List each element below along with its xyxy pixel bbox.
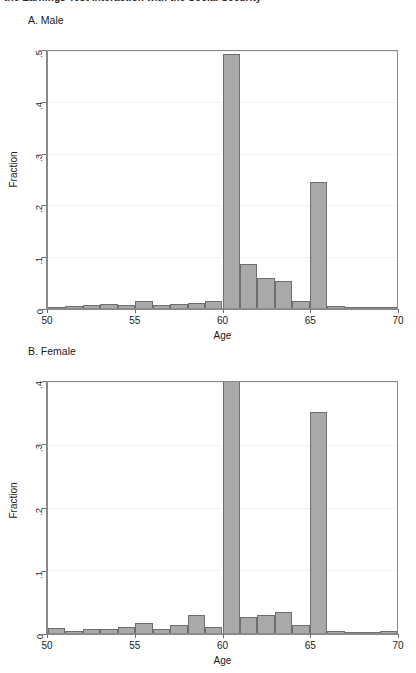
x-tick-label: 60 — [217, 315, 228, 326]
histogram-bar — [118, 305, 135, 308]
histogram-bar — [240, 617, 257, 633]
histogram-bar — [327, 631, 344, 634]
histogram-bar — [257, 615, 274, 633]
histogram-bar — [380, 307, 397, 308]
histogram-bar — [100, 629, 117, 633]
x-tick-mark — [135, 309, 136, 313]
histogram-bar — [345, 307, 362, 308]
panel-b-x-axis-title: Age — [47, 655, 398, 666]
x-tick-label: 60 — [217, 640, 228, 651]
x-tick-mark — [47, 309, 48, 313]
y-tick-label: .4 — [34, 381, 45, 389]
histogram-bar — [380, 631, 397, 633]
histogram-bar — [118, 627, 135, 633]
histogram-bar — [362, 632, 379, 633]
x-tick-label: 65 — [305, 315, 316, 326]
panel-a-x-axis-title: Age — [47, 330, 398, 341]
panel-b-y-axis-title: Fraction — [8, 471, 19, 531]
x-tick-mark — [398, 309, 399, 313]
panel-a-x-axis: 5055606570 — [47, 309, 399, 310]
y-tick-label: .1 — [34, 257, 45, 265]
histogram-bar — [205, 627, 222, 633]
x-tick-label: 50 — [41, 315, 52, 326]
panel-b-plot-inner — [48, 382, 397, 633]
x-tick-label: 50 — [41, 640, 52, 651]
histogram-bar — [240, 264, 257, 308]
panel-b-plot-area — [47, 381, 398, 634]
histogram-bar — [135, 623, 152, 633]
y-tick-label: .5 — [34, 50, 45, 58]
histogram-bar — [65, 631, 82, 633]
x-tick-mark — [47, 634, 48, 638]
y-tick-label: .3 — [34, 444, 45, 452]
histogram-bar — [275, 281, 292, 308]
x-tick-mark — [398, 634, 399, 638]
x-tick-mark — [223, 634, 224, 638]
histogram-bar — [327, 306, 344, 308]
x-tick-mark — [310, 634, 311, 638]
panel-a-title: A. Male — [28, 14, 64, 26]
histogram-bar — [310, 412, 327, 633]
x-tick-mark — [223, 309, 224, 313]
histogram-bar — [257, 278, 274, 308]
histogram-bar — [292, 625, 309, 633]
histogram-bar — [292, 301, 309, 308]
histogram-bar — [188, 615, 205, 633]
histogram-bar — [188, 303, 205, 308]
y-tick-label: .2 — [34, 508, 45, 516]
x-tick-mark — [135, 634, 136, 638]
histogram-bar — [170, 625, 187, 633]
histogram-bar — [275, 612, 292, 633]
panel-b-x-axis: 5055606570 — [47, 634, 399, 635]
x-tick-mark — [310, 309, 311, 313]
x-tick-label: 55 — [129, 315, 140, 326]
chart-panel-female: B. Female 0.1.2.3.4 Fraction 5055606570 … — [0, 345, 416, 673]
gridline — [48, 51, 397, 52]
panel-a-y-axis-title: Fraction — [8, 140, 19, 200]
histogram-bar — [170, 304, 187, 308]
panel-b-title: B. Female — [28, 345, 76, 357]
histogram-bar — [205, 301, 222, 308]
y-tick-label: .1 — [34, 571, 45, 579]
histogram-bar — [223, 382, 240, 633]
x-tick-label: 70 — [392, 315, 403, 326]
histogram-bar — [65, 306, 82, 308]
histogram-bar — [362, 307, 379, 308]
x-tick-label: 65 — [305, 640, 316, 651]
histogram-bar — [310, 182, 327, 308]
histogram-bar — [345, 632, 362, 633]
panel-a-plot-inner — [48, 51, 397, 308]
y-tick-label: 0 — [34, 634, 45, 639]
histogram-bar — [153, 629, 170, 633]
x-tick-label: 70 — [392, 640, 403, 651]
histogram-bar — [83, 305, 100, 308]
y-tick-label: .2 — [34, 205, 45, 213]
y-tick-label: .4 — [34, 102, 45, 110]
clipped-page-header: the Earnings Test interaction with the S… — [0, 0, 416, 7]
histogram-bar — [83, 629, 100, 633]
histogram-bar — [100, 304, 117, 308]
histogram-bar — [223, 54, 240, 308]
histogram-bar — [135, 301, 152, 308]
histogram-bar — [48, 307, 65, 308]
x-tick-label: 55 — [129, 640, 140, 651]
histogram-bar — [153, 305, 170, 308]
clipped-header-text: the Earnings Test interaction with the S… — [4, 0, 262, 3]
histogram-bar — [48, 628, 65, 633]
y-tick-label: .3 — [34, 154, 45, 162]
panel-a-plot-area — [47, 50, 398, 309]
y-tick-label: 0 — [34, 309, 45, 314]
chart-panel-male: A. Male 0.1.2.3.4.5 Fraction 5055606570 … — [0, 14, 416, 359]
